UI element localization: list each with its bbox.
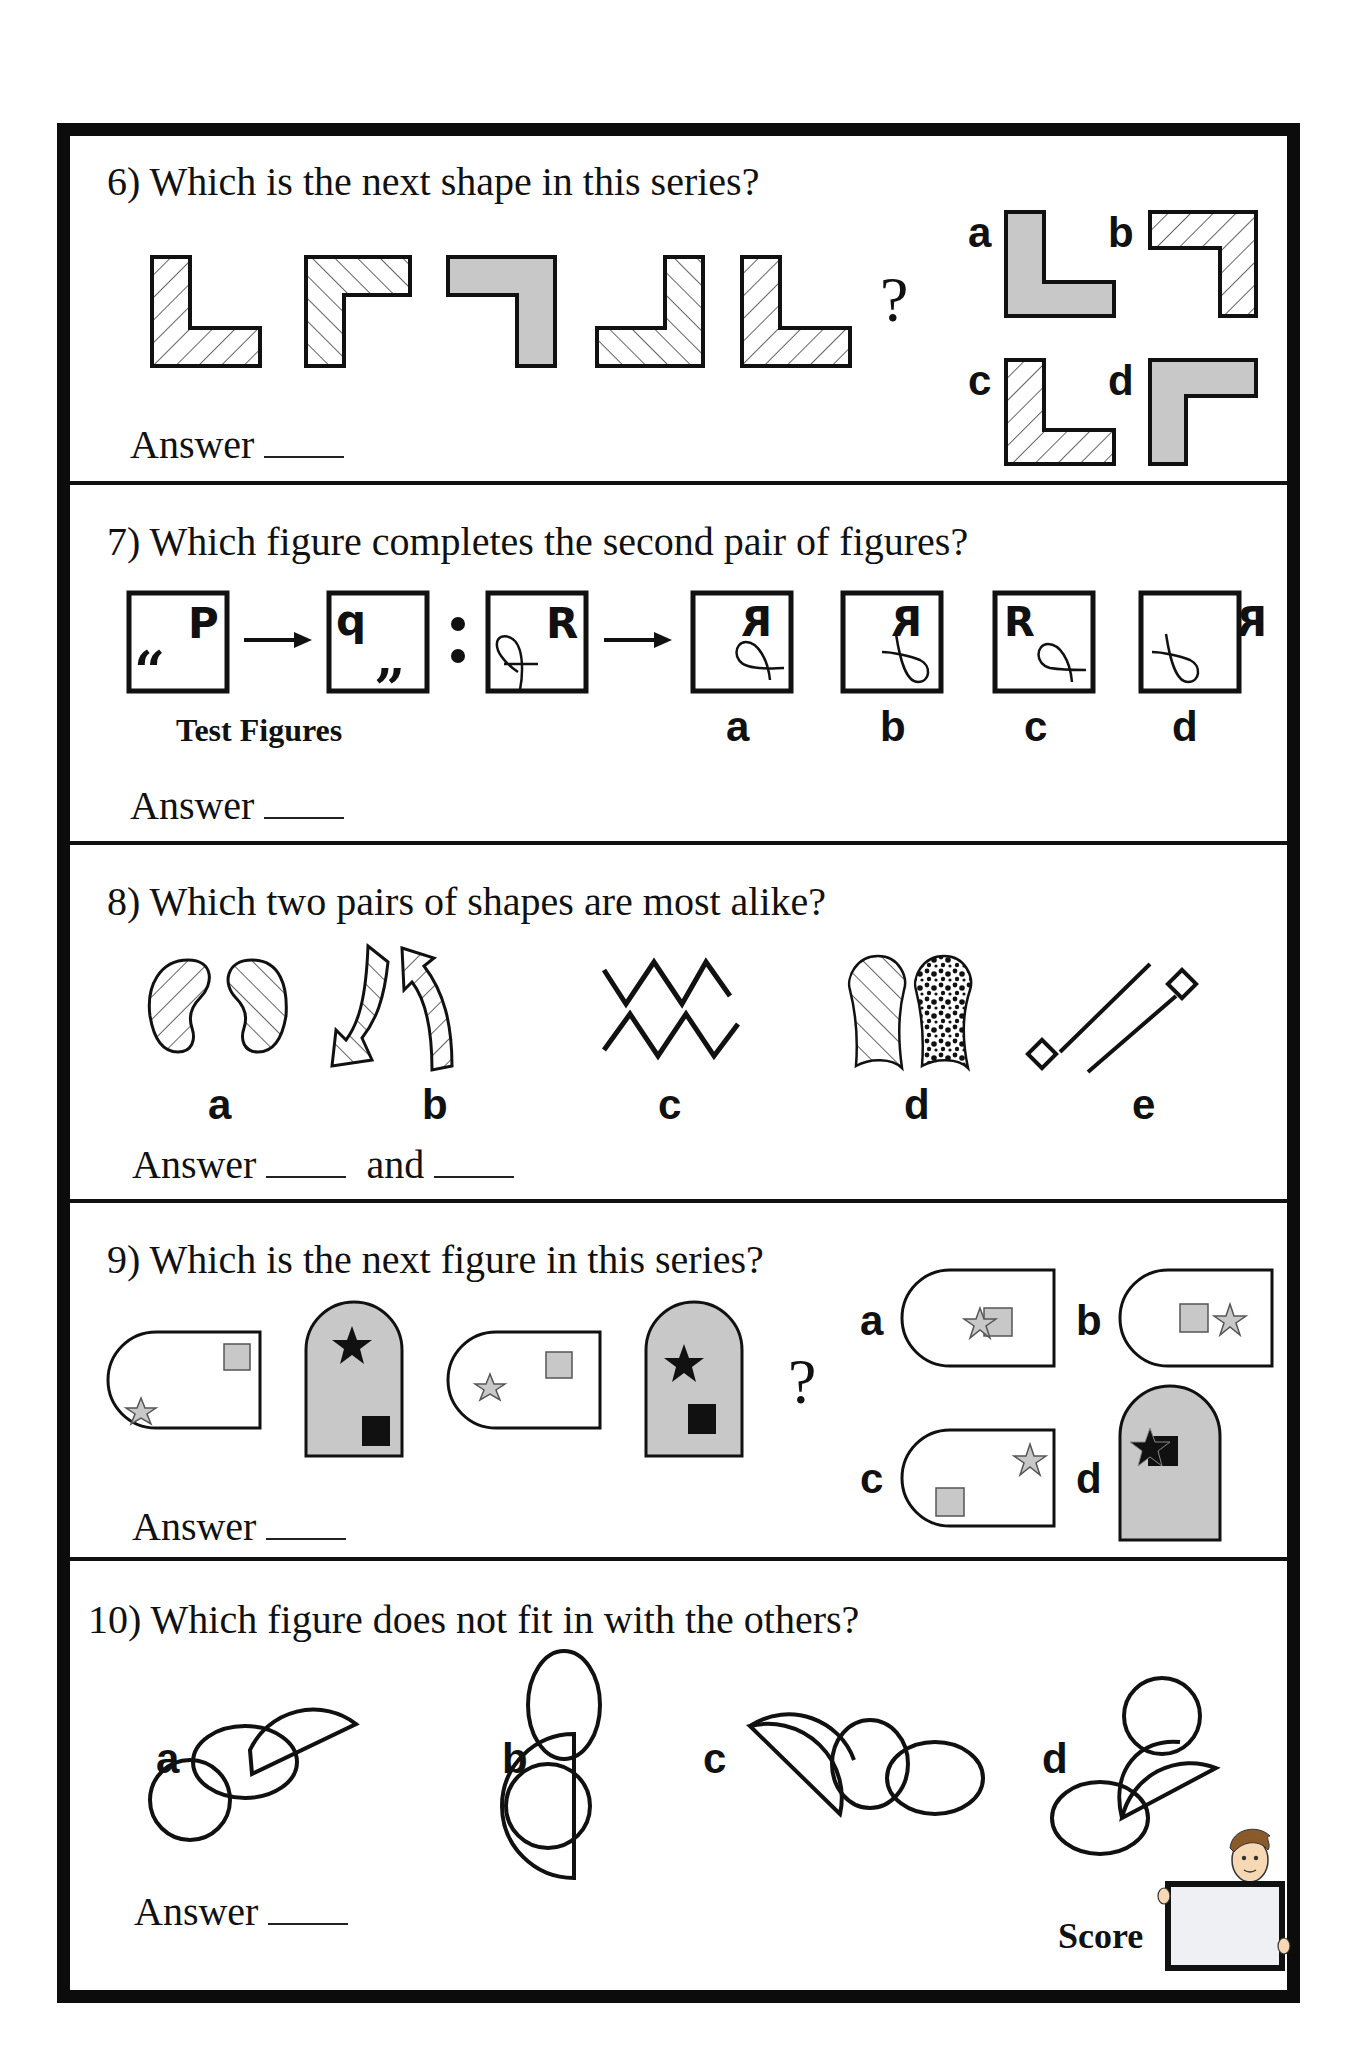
answer-label: Answer [132,1142,256,1187]
svg-text:R: R [741,599,772,645]
answer-field-10[interactable]: Answer [134,1892,348,1932]
pair-c[interactable] [604,962,738,1056]
answer-blank[interactable] [268,1921,348,1925]
option-b-label[interactable]: b [1076,1300,1102,1342]
option-b-figure[interactable]: R [843,593,941,691]
option-c-label[interactable]: c [860,1458,883,1500]
section-divider [70,1557,1288,1561]
pair-d[interactable] [849,956,971,1068]
pair-a[interactable] [149,960,286,1052]
option-d-label[interactable]: d [1076,1458,1102,1500]
svg-text:R: R [546,599,578,648]
pair-b[interactable] [332,946,452,1070]
answer-label: Answer [130,422,254,467]
option-a-label[interactable]: a [208,1084,231,1126]
answer-field-6[interactable]: Answer [130,425,344,465]
answer-blank[interactable] [266,1536,346,1540]
option-c-shape[interactable] [1004,358,1118,468]
question-mark: ? [880,268,908,332]
option-d-label[interactable]: d [1042,1738,1068,1780]
option-d-label[interactable]: d [1172,706,1198,748]
svg-text:q: q [336,596,366,645]
option-d-figure[interactable]: R [1141,593,1267,691]
option-b-label[interactable]: b [502,1738,528,1780]
option-a-label[interactable]: a [860,1300,883,1342]
analogy-options: R R R R [690,590,1260,700]
option-b-label[interactable]: b [1108,212,1134,254]
option-c-figure[interactable] [898,1426,1060,1530]
option-c-label[interactable]: c [658,1084,681,1126]
and-label: and [366,1142,424,1187]
score-box[interactable] [1175,1891,1275,1961]
question-8-title: 8) Which two pairs of shapes are most al… [107,882,826,922]
option-d-figure[interactable] [1118,1384,1222,1544]
option-e-label[interactable]: e [1132,1084,1155,1126]
option-a-figure[interactable] [898,1266,1060,1370]
answer-label: Answer [132,1504,256,1549]
option-b-label[interactable]: b [422,1084,448,1126]
option-a-figure[interactable]: R [693,593,791,691]
option-c-label[interactable]: c [968,360,991,402]
option-a-label[interactable]: a [968,212,991,254]
series-shapes [150,255,870,370]
option-b-figure[interactable] [1116,1266,1278,1370]
option-a-label[interactable]: a [726,706,749,748]
svg-text:“: “ [134,639,165,703]
question-7-title: 7) Which figure completes the second pai… [107,522,968,562]
option-c-figure[interactable] [750,1714,983,1814]
answer-blank-2[interactable] [434,1174,514,1178]
answer-label: Answer [130,783,254,828]
option-b-label[interactable]: b [880,706,906,748]
option-c-figure[interactable]: R [995,593,1093,691]
section-divider [70,481,1288,485]
option-a-shape[interactable] [1004,210,1118,320]
svg-text:R: R [1004,599,1035,645]
option-c-label[interactable]: c [1024,706,1047,748]
svg-text:R: R [1236,599,1267,645]
option-b-shape[interactable] [1148,210,1262,320]
pair-e[interactable] [1028,964,1196,1072]
section-divider [70,841,1288,845]
answer-blank[interactable] [264,815,344,819]
option-a-label[interactable]: a [156,1738,179,1780]
question-6-title: 6) Which is the next shape in this serie… [107,162,759,202]
answer-field-8[interactable]: Answer and [132,1145,514,1185]
option-c-label[interactable]: c [703,1738,726,1780]
option-d-shape[interactable] [1148,358,1262,468]
option-d-label[interactable]: d [904,1084,930,1126]
score-label: Score [1058,1918,1143,1954]
test-figures-label: Test Figures [176,714,342,746]
answer-field-7[interactable]: Answer [130,786,344,826]
pairs-figures [140,940,1260,1080]
answer-blank-1[interactable] [266,1174,346,1178]
svg-text:P: P [188,599,219,648]
answer-label: Answer [134,1889,258,1934]
question-9-title: 9) Which is the next figure in this seri… [107,1240,764,1280]
section-divider [70,1199,1288,1203]
series-figures [100,1300,820,1470]
answer-field-9[interactable]: Answer [132,1507,346,1547]
option-d-label[interactable]: d [1108,360,1134,402]
svg-text:”: ” [374,657,405,721]
option-a-figure[interactable] [150,1710,356,1840]
question-10-title: 10) Which figure does not fit in with th… [88,1600,859,1640]
answer-blank[interactable] [264,454,344,458]
question-mark: ? [788,1350,816,1414]
